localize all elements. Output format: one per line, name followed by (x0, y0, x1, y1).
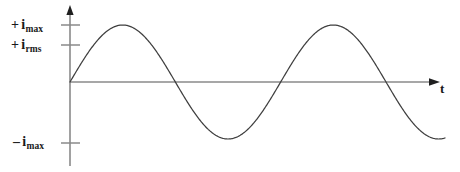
x-axis-arrow-icon (429, 78, 440, 86)
y-axis-label-irms-positive: +irms (11, 37, 41, 53)
irms-positive-symbol: i (21, 37, 25, 52)
x-axis-label-time: t (440, 81, 445, 97)
irms-positive-sign: + (11, 37, 19, 52)
y-axis-label-imax-positive: +imax (11, 17, 43, 33)
imax-negative-subscript: max (27, 141, 44, 151)
waveform-plot (0, 0, 460, 172)
irms-positive-subscript: rms (26, 44, 42, 54)
imax-positive-sign: + (11, 17, 19, 32)
imax-negative-sign: – (13, 134, 20, 149)
y-axis-label-imax-negative: –imax (13, 134, 44, 150)
imax-negative-symbol: i (22, 134, 26, 149)
y-axis-arrow-icon (66, 5, 73, 15)
imax-positive-symbol: i (21, 17, 25, 32)
waveform-figure: +imax +irms –imax t (0, 0, 460, 172)
imax-positive-subscript: max (26, 24, 43, 34)
